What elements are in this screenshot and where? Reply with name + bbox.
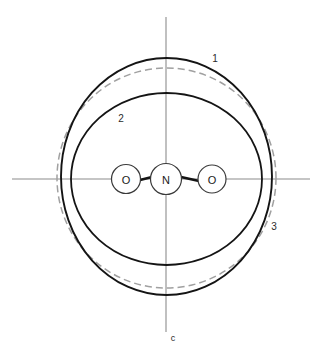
contour-label-3: 3 [271,221,277,232]
atom-nitrogen-center-label: N [162,174,170,186]
contour-label-1: 1 [212,53,218,64]
atom-oxygen-left-label: O [122,174,131,186]
atom-oxygen-right-label: O [208,174,217,186]
contour-label-2: 2 [118,113,124,124]
contour-diagram-svg: O N O 1 2 3 c [0,0,323,355]
vertical-axis-label: c [171,333,176,343]
figure-container: O N O 1 2 3 c [0,0,323,355]
